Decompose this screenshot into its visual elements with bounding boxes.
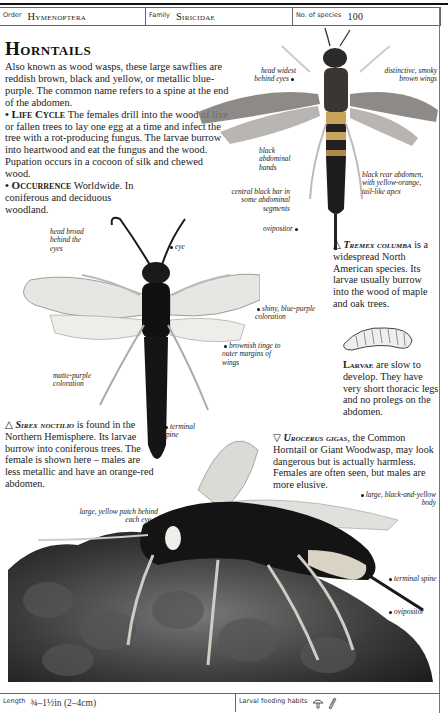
feeding-label: Larval feeding habits bbox=[239, 697, 307, 705]
triangle-up-icon: △ bbox=[333, 239, 341, 250]
urocerus-spine-label: terminal spine bbox=[387, 575, 437, 583]
urocerus-body-label: large, black-and-yellow body bbox=[356, 491, 436, 508]
top-rule bbox=[0, 3, 448, 5]
pointer-dot bbox=[291, 78, 294, 81]
larvae-heading: Larvae bbox=[343, 359, 374, 370]
tremex-bar-label: central black bar in some abdominal segm… bbox=[215, 188, 290, 213]
wood-icon bbox=[326, 697, 338, 709]
family-value: Siricidae bbox=[176, 11, 215, 22]
urocerus-caption: ▽ Urocerus gigas, the Common Horntail or… bbox=[273, 432, 438, 491]
family-cell: Family Siricidae bbox=[146, 8, 293, 25]
length-label: Length bbox=[3, 697, 25, 705]
urocerus-ovipositor-label: ovipositor bbox=[387, 608, 424, 616]
triangle-up-icon: △ bbox=[5, 419, 13, 430]
species-label: No. of species bbox=[296, 11, 341, 19]
footer-info-bar: Length ¾–1½in (2–4cm) Larval feeding hab… bbox=[0, 693, 440, 712]
feeding-cell: Larval feeding habits bbox=[236, 694, 338, 712]
triangle-down-icon: ▽ bbox=[273, 432, 281, 443]
urocerus-species-name: Urocerus gigas bbox=[283, 432, 347, 443]
species-value: 100 bbox=[347, 11, 363, 22]
family-label: Family bbox=[149, 11, 170, 19]
length-cell: Length ¾–1½in (2–4cm) bbox=[0, 694, 236, 712]
occurrence-heading: • Occurrence bbox=[5, 179, 71, 191]
sirex-shiny-label: shiny, blue-purple coloration bbox=[255, 305, 325, 322]
sirex-species-name: Sirex noctilio bbox=[15, 419, 74, 430]
sirex-head-label: head broad behind the eyes bbox=[50, 228, 95, 253]
fungus-icon bbox=[312, 697, 324, 709]
sirex-tinge-label: brownish tinge to outer margins of wings bbox=[222, 342, 287, 367]
order-label: Order bbox=[3, 11, 21, 19]
tremex-rear-label: black rear abdomen, with yellow-orange, … bbox=[362, 171, 432, 196]
life-cycle-heading: • Life Cycle bbox=[5, 108, 65, 120]
occurrence-section: • Occurrence Worldwide. In coniferous an… bbox=[5, 180, 155, 216]
tremex-bands-label: black abdominal bands bbox=[259, 147, 299, 172]
urocerus-patch-label: large, yellow patch behind each eye bbox=[78, 508, 158, 525]
order-cell: Order Hymenoptera bbox=[0, 8, 146, 25]
tremex-caption: △ Tremex columba is a widespread North A… bbox=[333, 239, 438, 310]
page-title: Horntails bbox=[5, 38, 91, 60]
tremex-head-label: head widest behind eyes bbox=[241, 67, 296, 84]
larva-illustration bbox=[340, 322, 415, 354]
length-value: ¾–1½in (2–4cm) bbox=[30, 698, 96, 708]
larvae-caption: Larvae are slow to develop. They have ve… bbox=[343, 359, 440, 418]
tremex-wings-label: distinctive, smoky brown wings bbox=[367, 67, 437, 84]
tremex-ovipositor-label: ovipositor bbox=[263, 225, 300, 233]
sirex-matte-label: matte-purple coloration bbox=[53, 372, 108, 389]
species-cell: No. of species 100 bbox=[293, 8, 440, 25]
tremex-species-name: Tremex columba bbox=[343, 239, 411, 250]
sirex-eye-label: eye bbox=[168, 243, 185, 251]
order-value: Hymenoptera bbox=[27, 11, 86, 22]
